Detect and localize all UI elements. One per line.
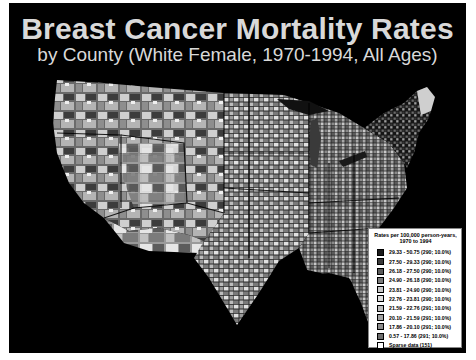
legend-swatch (377, 305, 384, 312)
legend-title-line2: 1970 to 1994 (373, 238, 458, 244)
legend-swatch (377, 249, 384, 256)
legend-item: Sparse data (151) (373, 341, 458, 350)
legend-item: 23.81 - 24.90 (290; 10.0%) (373, 285, 458, 294)
legend-label: 21.59 - 22.76 (291; 10.0%) (389, 305, 451, 311)
legend-swatch (377, 342, 384, 349)
legend-swatch (377, 258, 384, 265)
legend-item: 20.10 - 21.59 (291; 10.0%) (373, 313, 458, 322)
map-slide: Breast Cancer Mortality Rates by County … (9, 3, 466, 353)
legend-item: 27.50 - 29.33 (290; 10.0%) (373, 257, 458, 266)
legend-item: 22.76 - 23.81 (290; 10.0%) (373, 294, 458, 303)
legend-label: 20.10 - 21.59 (291; 10.0%) (389, 315, 451, 321)
legend-label: 26.18 - 27.50 (290; 10.0%) (389, 268, 451, 274)
legend-item: 26.18 - 27.50 (290; 10.0%) (373, 266, 458, 275)
legend: Rates per 100,000 person-years, 1970 to … (368, 228, 462, 348)
legend-label: 22.76 - 23.81 (290; 10.0%) (389, 296, 451, 302)
legend-item: 24.90 - 26.18 (290; 10.0%) (373, 276, 458, 285)
legend-swatch (377, 277, 384, 284)
legend-label: 17.86 - 20.10 (291; 10.0%) (389, 324, 451, 330)
legend-swatch (377, 314, 384, 321)
legend-label: 27.50 - 29.33 (290; 10.0%) (389, 259, 451, 265)
legend-swatch (377, 323, 384, 330)
legend-label: Sparse data (151) (389, 342, 432, 348)
legend-label: 0.57 - 17.86 (291; 10.0%) (389, 333, 448, 339)
legend-item: 29.33 - 50.75 (290; 10.0%) (373, 248, 458, 257)
legend-swatch (377, 286, 384, 293)
legend-item: 0.57 - 17.86 (291; 10.0%) (373, 331, 458, 340)
legend-item: 21.59 - 22.76 (291; 10.0%) (373, 304, 458, 313)
legend-title: Rates per 100,000 person-years, 1970 to … (373, 232, 458, 245)
legend-swatch (377, 333, 384, 340)
legend-label: 29.33 - 50.75 (290; 10.0%) (389, 249, 451, 255)
legend-item: 17.86 - 20.10 (291; 10.0%) (373, 322, 458, 331)
map-subtitle: by County (White Female, 1970-1994, All … (9, 44, 466, 66)
map-title: Breast Cancer Mortality Rates (9, 13, 466, 45)
legend-label: 24.90 - 26.18 (290; 10.0%) (389, 277, 451, 283)
legend-swatch (377, 268, 384, 275)
legend-swatch (377, 295, 384, 302)
legend-label: 23.81 - 24.90 (290; 10.0%) (389, 287, 451, 293)
